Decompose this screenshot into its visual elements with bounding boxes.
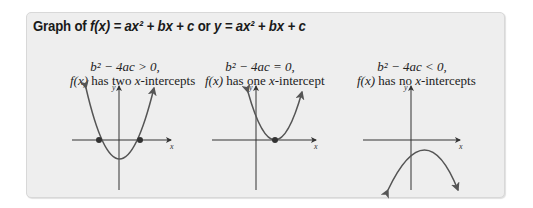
svg-text:y: y — [403, 83, 408, 92]
svg-text:x: x — [169, 142, 174, 151]
svg-text:x: x — [313, 142, 318, 151]
svg-text:y: y — [248, 83, 253, 92]
panel-1-graph: x y — [72, 83, 174, 190]
x-intercept-point — [272, 137, 278, 143]
parabola — [86, 88, 154, 159]
x-intercept-point — [137, 137, 143, 143]
svg-text:y: y — [111, 83, 116, 92]
graphs: x y x y x y — [0, 0, 533, 208]
panel-2-graph: x y — [212, 83, 318, 190]
x-intercept-point — [96, 137, 102, 143]
svg-text:x: x — [458, 142, 463, 151]
panel-3-graph: x y — [363, 83, 463, 190]
parabola — [388, 150, 458, 190]
